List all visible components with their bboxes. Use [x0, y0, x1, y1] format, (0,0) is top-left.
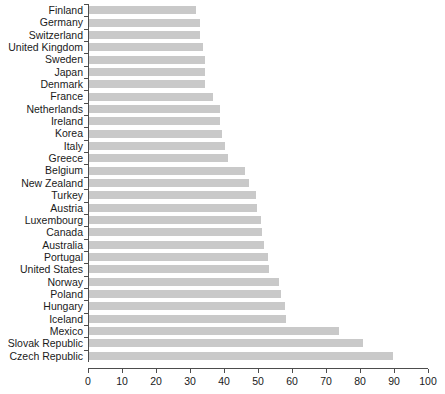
y-axis-tick	[84, 350, 88, 351]
bar	[89, 315, 286, 323]
category-label: Netherlands	[26, 103, 83, 115]
x-axis-tick	[428, 369, 429, 373]
y-axis-tick	[84, 239, 88, 240]
bar-row: Norway	[0, 276, 445, 288]
category-label: Portugal	[44, 251, 83, 263]
bar	[89, 167, 245, 175]
bar-row: Poland	[0, 288, 445, 300]
bar	[89, 80, 205, 88]
bar	[89, 154, 228, 162]
y-axis-tick	[84, 16, 88, 17]
bar	[89, 117, 220, 125]
bar	[89, 352, 393, 360]
category-label: Canada	[46, 226, 83, 238]
category-label: Italy	[64, 140, 83, 152]
bar-row: Czech Republic	[0, 350, 445, 362]
category-label: France	[50, 90, 83, 102]
category-label: Finland	[49, 4, 83, 16]
x-axis-tick	[326, 369, 327, 373]
bar-row: Australia	[0, 239, 445, 251]
y-axis-tick	[84, 29, 88, 30]
bar	[89, 302, 285, 310]
bar	[89, 142, 225, 150]
category-label: United Kingdom	[8, 41, 83, 53]
bar	[89, 130, 222, 138]
bar-row: Hungary	[0, 300, 445, 312]
bar-chart: FinlandGermanySwitzerlandUnited KingdomS…	[0, 0, 445, 394]
category-label: Slovak Republic	[8, 337, 83, 349]
x-axis-tick	[360, 369, 361, 373]
y-axis-tick	[84, 41, 88, 42]
category-label: Ireland	[51, 115, 83, 127]
y-axis-tick	[84, 263, 88, 264]
bar	[89, 179, 249, 187]
bar-row: Ireland	[0, 115, 445, 127]
category-label: Belgium	[45, 164, 83, 176]
category-label: Denmark	[40, 78, 83, 90]
y-axis-tick	[84, 66, 88, 67]
bar	[89, 327, 339, 335]
x-axis-tick	[258, 369, 259, 373]
bar	[89, 339, 363, 347]
y-axis-tick	[84, 53, 88, 54]
category-label: Austria	[50, 202, 83, 214]
bar-row: Japan	[0, 66, 445, 78]
bar-row: Turkey	[0, 189, 445, 201]
y-axis-tick	[84, 4, 88, 5]
category-label: Turkey	[51, 189, 83, 201]
bar-row: Canada	[0, 226, 445, 238]
y-axis-tick	[84, 78, 88, 79]
bar-row: United Kingdom	[0, 41, 445, 53]
bar	[89, 216, 261, 224]
y-axis-tick	[84, 288, 88, 289]
y-axis-tick	[84, 140, 88, 141]
bar-row: New Zealand	[0, 177, 445, 189]
bar	[89, 191, 256, 199]
x-axis-tick	[156, 369, 157, 373]
bar-row: Denmark	[0, 78, 445, 90]
category-label: Australia	[42, 239, 83, 251]
y-axis-tick	[84, 202, 88, 203]
y-axis-tick	[84, 313, 88, 314]
bar	[89, 68, 205, 76]
x-axis-tick	[122, 369, 123, 373]
bar	[89, 265, 269, 273]
bar	[89, 6, 196, 14]
bar-rows: FinlandGermanySwitzerlandUnited KingdomS…	[0, 4, 445, 362]
category-label: New Zealand	[21, 177, 83, 189]
bar	[89, 31, 200, 39]
bar	[89, 228, 262, 236]
category-label: Luxembourg	[25, 214, 83, 226]
bar-row: Belgium	[0, 164, 445, 176]
category-label: Czech Republic	[9, 350, 83, 362]
bar-row: Portugal	[0, 251, 445, 263]
y-axis-tick	[84, 226, 88, 227]
bar	[89, 290, 281, 298]
y-axis-tick	[84, 152, 88, 153]
bar-row: Mexico	[0, 325, 445, 337]
category-label: Sweden	[45, 53, 83, 65]
bar	[89, 241, 264, 249]
y-axis-tick	[84, 300, 88, 301]
x-axis-tick	[394, 369, 395, 373]
category-label: Hungary	[43, 300, 83, 312]
bar-row: Korea	[0, 127, 445, 139]
y-axis-tick	[84, 325, 88, 326]
x-axis-tick	[88, 369, 89, 373]
category-label: Norway	[47, 276, 83, 288]
bar-row: Iceland	[0, 313, 445, 325]
category-label: Mexico	[50, 325, 83, 337]
category-label: Korea	[55, 127, 83, 139]
y-axis-tick	[84, 251, 88, 252]
y-axis-tick	[84, 214, 88, 215]
bar	[89, 19, 200, 27]
y-axis-tick	[84, 90, 88, 91]
y-axis-tick	[84, 177, 88, 178]
category-label: Iceland	[49, 313, 83, 325]
bar	[89, 278, 279, 286]
bar-row: Luxembourg	[0, 214, 445, 226]
bar-row: Germany	[0, 16, 445, 28]
category-label: Japan	[54, 66, 83, 78]
bar	[89, 93, 213, 101]
bar-row: France	[0, 90, 445, 102]
